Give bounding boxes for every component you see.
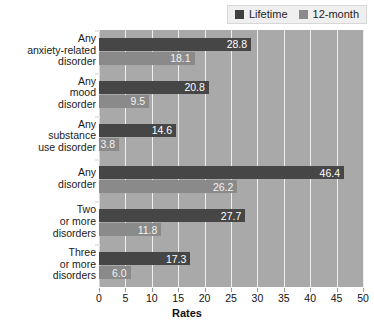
chart-legend: Lifetime 12-month xyxy=(227,5,367,24)
category-label: Anymooddisorder xyxy=(0,76,96,111)
category-label-line: Any xyxy=(0,33,96,45)
bar-12-month: 11.8 xyxy=(99,223,161,236)
bar-value-label: 27.7 xyxy=(221,211,245,221)
category-label: Threeor moredisorders xyxy=(0,247,96,282)
category-label: Twoor moredisorders xyxy=(0,204,96,239)
legend-item-lifetime: Lifetime xyxy=(235,9,288,20)
bar-group: 14.63.8 xyxy=(99,124,363,151)
category-label-line: disorders xyxy=(0,228,96,240)
category-label: Anydisorder xyxy=(0,167,96,190)
gridline xyxy=(178,30,179,287)
category-label-line: use disorder xyxy=(0,142,96,154)
bar-lifetime: 46.4 xyxy=(99,166,344,179)
gridline xyxy=(363,30,364,287)
bar-value-label: 28.8 xyxy=(227,39,251,49)
bar-group: 28.818.1 xyxy=(99,38,363,65)
x-tick-label: 45 xyxy=(325,292,349,304)
legend-label-lifetime: Lifetime xyxy=(249,9,288,20)
gridline xyxy=(310,30,311,287)
category-tick xyxy=(95,244,100,246)
x-tick-label: 0 xyxy=(87,292,111,304)
gridline xyxy=(337,30,338,287)
x-tick-label: 10 xyxy=(140,292,164,304)
category-tick xyxy=(95,30,100,32)
bar-12-month: 26.2 xyxy=(99,180,237,193)
plot-area: 28.818.120.89.514.63.846.426.227.711.817… xyxy=(99,30,363,287)
bar-value-label: 18.1 xyxy=(170,53,194,63)
x-tick-label: 15 xyxy=(166,292,190,304)
x-tick-label: 50 xyxy=(351,292,374,304)
x-tick-label: 25 xyxy=(219,292,243,304)
x-tick-label: 40 xyxy=(298,292,322,304)
bar-value-label: 46.4 xyxy=(320,168,344,178)
gridline xyxy=(257,30,258,287)
bar-12-month: 18.1 xyxy=(99,52,195,65)
bar-chart: Lifetime 12-month Anyanxiety-relateddiso… xyxy=(0,0,374,327)
gridline xyxy=(125,30,126,287)
bar-group: 46.426.2 xyxy=(99,166,363,193)
gridline xyxy=(231,30,232,287)
bar-lifetime: 27.7 xyxy=(99,209,245,222)
bar-value-label: 6.0 xyxy=(112,268,131,278)
bar-12-month: 6.0 xyxy=(99,266,131,279)
bar-group: 17.36.0 xyxy=(99,252,363,279)
category-label-line: or more xyxy=(0,216,96,228)
category-axis-labels: Anyanxiety-relateddisorderAnymooddisorde… xyxy=(0,30,96,287)
bar-value-label: 14.6 xyxy=(152,125,176,135)
bar-12-month: 3.8 xyxy=(99,138,119,151)
bar-group: 27.711.8 xyxy=(99,209,363,236)
gridline xyxy=(284,30,285,287)
bar-lifetime: 20.8 xyxy=(99,81,209,94)
x-axis-title: Rates xyxy=(0,307,374,319)
bar-lifetime: 28.8 xyxy=(99,38,251,51)
gridline xyxy=(205,30,206,287)
bar-lifetime: 17.3 xyxy=(99,252,190,265)
x-tick-label: 35 xyxy=(272,292,296,304)
value-axis: 05101520253035404550 xyxy=(99,288,363,304)
bar-value-label: 26.2 xyxy=(213,182,237,192)
category-tick xyxy=(95,159,100,161)
bar-group: 20.89.5 xyxy=(99,81,363,108)
x-tick-label: 20 xyxy=(193,292,217,304)
bar-value-label: 17.3 xyxy=(166,254,190,264)
legend-label-12-month: 12-month xyxy=(313,9,359,20)
category-label-line: disorder xyxy=(0,99,96,111)
category-label-line: disorder xyxy=(0,179,96,191)
category-label-line: disorder xyxy=(0,56,96,68)
gridline xyxy=(152,30,153,287)
legend-swatch-12-month xyxy=(299,10,308,19)
category-label: Anysubstanceuse disorder xyxy=(0,119,96,154)
bar-value-label: 11.8 xyxy=(138,225,162,235)
category-tick xyxy=(95,116,100,118)
category-tick xyxy=(95,201,100,203)
bar-value-label: 3.8 xyxy=(100,139,119,149)
bar-value-label: 9.5 xyxy=(131,96,150,106)
x-tick-label: 5 xyxy=(113,292,137,304)
category-label-line: disorders xyxy=(0,270,96,282)
legend-swatch-lifetime xyxy=(235,10,244,19)
bar-12-month: 9.5 xyxy=(99,95,149,108)
category-label: Anyanxiety-relateddisorder xyxy=(0,33,96,68)
bar-lifetime: 14.6 xyxy=(99,124,176,137)
bar-value-label: 20.8 xyxy=(184,82,208,92)
x-tick-label: 30 xyxy=(245,292,269,304)
category-tick xyxy=(95,73,100,75)
legend-item-12-month: 12-month xyxy=(299,9,359,20)
